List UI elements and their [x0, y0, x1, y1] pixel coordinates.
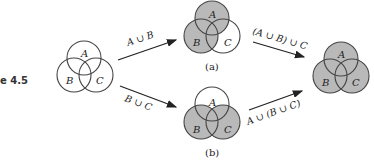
label-c: C [224, 124, 232, 135]
caption-a: (a) [205, 61, 219, 72]
label-b: B [321, 77, 329, 88]
caption-b: (b) [205, 147, 219, 158]
label-b: B [192, 37, 200, 48]
arrow-label-top-right: (A ∪ B) ∪ C [251, 25, 309, 51]
venn-a: A B C (a) [184, 1, 240, 72]
label-b: B [192, 124, 200, 135]
arrow-label-bottom-left: B ∪ C [122, 92, 154, 113]
venn-final: A B C [313, 42, 369, 93]
label-a: A [80, 48, 88, 59]
label-c: C [224, 37, 232, 48]
label-a: A [208, 97, 216, 108]
venn-associativity-diagram: e 4.5 A B C A B C (a) A B C (b) A B [0, 0, 374, 167]
label-c: C [96, 75, 104, 86]
label-a: A [208, 9, 216, 20]
venn-initial: A B C [57, 41, 113, 92]
label-a: A [337, 49, 345, 60]
arrow-label-top-left: A ∪ B [124, 29, 155, 48]
figure-label: e 4.5 [0, 75, 28, 86]
label-c: C [352, 77, 360, 88]
venn-b: A B C (b) [184, 87, 240, 158]
label-b: B [65, 75, 73, 86]
